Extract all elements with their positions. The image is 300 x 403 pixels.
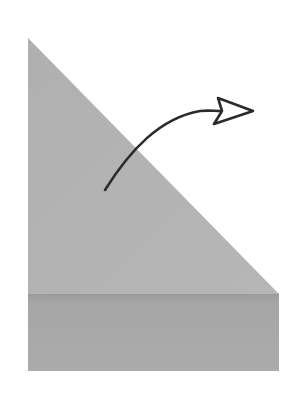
fold-diagram (0, 0, 300, 403)
paper-base (28, 294, 279, 371)
paper-triangle-flap (28, 38, 279, 294)
